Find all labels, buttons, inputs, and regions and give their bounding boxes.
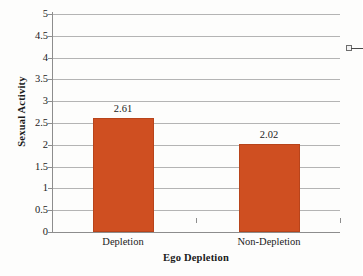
y-axis-tick-mark — [48, 232, 53, 233]
bar-value-label: 2.02 — [229, 129, 309, 140]
y-axis-tick-label: 3 — [14, 96, 48, 106]
y-axis-tick-labels: 54.543.532.521.510.50 — [8, 0, 48, 276]
y-axis-tick-mark — [48, 123, 53, 124]
y-axis-tick-label: 1.5 — [14, 162, 48, 172]
y-axis-tick-mark — [48, 36, 53, 37]
gridline — [52, 232, 340, 233]
y-axis-tick-mark — [48, 101, 53, 102]
y-axis-tick-mark — [48, 14, 53, 15]
y-axis-tick-mark — [48, 145, 53, 146]
y-axis-tick-label: 3.5 — [14, 74, 48, 84]
gridline — [52, 79, 340, 80]
gridline — [52, 58, 340, 59]
y-axis-tick-label: 4 — [14, 53, 48, 63]
legend-marker — [346, 44, 362, 53]
bar-value-label: 2.61 — [83, 103, 163, 114]
y-axis-tick-mark — [48, 167, 53, 168]
y-axis-tick-label: 2 — [14, 140, 48, 150]
x-axis-tick-mark — [52, 218, 53, 223]
y-axis-tick-label: 0 — [14, 227, 48, 237]
y-axis-tick-label: 2.5 — [14, 118, 48, 128]
legend-marker-line-icon — [351, 48, 363, 50]
bar — [93, 118, 154, 232]
y-axis-tick-label: 1 — [14, 183, 48, 193]
y-axis-tick-mark — [48, 210, 53, 211]
gridline — [52, 101, 340, 102]
x-axis-category-label: Depletion — [53, 236, 193, 247]
y-axis-tick-label: 4.5 — [14, 31, 48, 41]
y-axis-tick-mark — [48, 58, 53, 59]
y-axis-tick-mark — [48, 79, 53, 80]
x-axis-tick-mark — [340, 218, 341, 223]
y-axis-tick-label: 0.5 — [14, 205, 48, 215]
gridline — [52, 36, 340, 37]
gridline — [52, 14, 340, 15]
x-axis-tick-mark — [196, 218, 197, 223]
plot-area — [52, 14, 340, 232]
x-axis-category-label: Non-Depletion — [199, 236, 339, 247]
x-axis-title: Ego Depletion — [52, 252, 340, 263]
bar — [239, 144, 300, 232]
y-axis-tick-label: 5 — [14, 9, 48, 19]
y-axis-tick-mark — [48, 188, 53, 189]
